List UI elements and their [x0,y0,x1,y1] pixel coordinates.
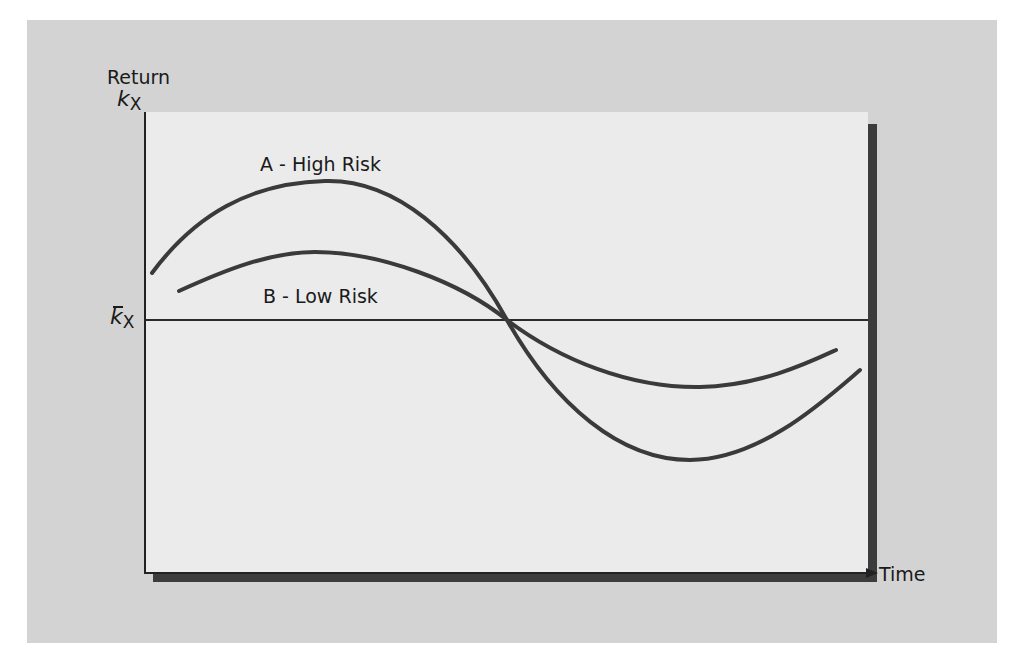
y-axis-symbol: kX [117,86,141,114]
y-symbol-base: k [117,86,130,111]
mean-overbar [113,306,123,308]
mean-symbol-subscript: X [123,312,135,332]
chart-svg [0,0,1020,656]
y-axis-title: Return [107,66,170,88]
x-axis-title: Time [879,563,926,585]
series-b-label: B - Low Risk [263,285,378,307]
series-a-label: A - High Risk [260,153,381,175]
mean-return-label: kX [110,304,134,332]
y-symbol-subscript: X [130,94,142,114]
